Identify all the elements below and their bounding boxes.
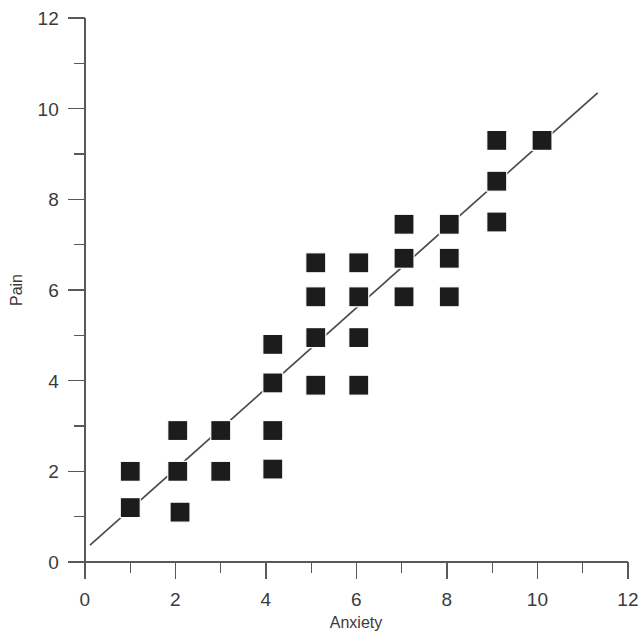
data-point-marker (306, 328, 326, 348)
data-point-marker (394, 214, 414, 234)
data-point-marker (263, 459, 283, 479)
y-tick-label: 12 (37, 8, 59, 29)
data-point-marker (394, 287, 414, 307)
y-tick-label: 6 (48, 280, 59, 301)
x-tick-label: 10 (527, 589, 549, 610)
data-point-marker (168, 461, 188, 481)
data-point-marker (168, 421, 188, 441)
x-tick-label: 6 (351, 589, 362, 610)
data-point-marker (170, 502, 190, 522)
data-point-marker (263, 334, 283, 354)
data-point-marker (211, 461, 231, 481)
data-point-marker (349, 253, 369, 273)
data-point-marker (263, 373, 283, 393)
x-tick-label: 2 (170, 589, 181, 610)
data-point-marker (394, 248, 414, 268)
data-point-marker (349, 287, 369, 307)
plot-canvas: 024681012 024681012 Anxiety Pain (0, 0, 640, 638)
x-axis-title: Anxiety (330, 614, 382, 631)
y-tick-label: 0 (48, 552, 59, 573)
y-axis-tick-labels: 024681012 (37, 8, 59, 573)
x-tick-label: 12 (617, 589, 639, 610)
x-axis-tick-labels: 024681012 (80, 589, 639, 610)
data-point-marker (487, 130, 507, 150)
x-tick-label: 4 (261, 589, 272, 610)
y-axis-major-ticks (68, 18, 85, 562)
data-point-marker (487, 171, 507, 191)
data-point-marker (349, 375, 369, 395)
data-point-marker (439, 214, 459, 234)
data-point-marker (439, 287, 459, 307)
data-point-marker (532, 130, 552, 150)
regression-trend-line (90, 93, 598, 545)
data-point-marker (306, 253, 326, 273)
y-tick-label: 10 (37, 99, 59, 120)
scatter-plot-figure: 024681012 024681012 Anxiety Pain (0, 0, 640, 638)
y-tick-label: 8 (48, 189, 59, 210)
data-point-marker (306, 375, 326, 395)
data-point-marker (120, 461, 140, 481)
data-point-marker (120, 498, 140, 518)
y-tick-label: 4 (48, 371, 59, 392)
data-point-marker (211, 421, 231, 441)
y-axis-title: Pain (8, 274, 25, 306)
data-point-marker (439, 248, 459, 268)
x-axis-major-ticks (85, 562, 628, 579)
data-point-marker (263, 421, 283, 441)
x-tick-label: 0 (80, 589, 91, 610)
x-tick-label: 8 (442, 589, 453, 610)
data-point-marker (349, 328, 369, 348)
y-tick-label: 2 (48, 461, 59, 482)
data-point-marker (487, 212, 507, 232)
data-point-marker (306, 287, 326, 307)
